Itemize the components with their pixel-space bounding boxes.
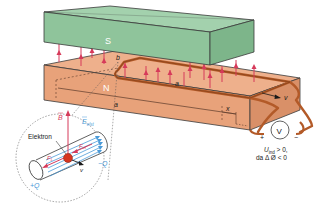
negative-charge-label: −Q: [98, 160, 108, 168]
positive-charge-label: +Q: [30, 182, 40, 190]
voltmeter-minus: −: [294, 134, 298, 141]
b-field-label: B: [58, 114, 63, 121]
width-b-label: b: [116, 54, 120, 61]
velocity-label: v: [284, 94, 288, 101]
north-pole-label: N: [103, 83, 110, 93]
position-x-label: x: [225, 105, 230, 112]
b-arrowhead-icon: [66, 110, 71, 116]
electron-label: Elektron: [28, 133, 52, 140]
induced-voltage-note: Uind > 0, da Δ Ø < 0: [256, 146, 288, 161]
flux-condition: da Δ Ø < 0: [256, 154, 287, 161]
south-magnet: [44, 6, 254, 65]
electron-icon: [64, 154, 73, 163]
induction-diagram: S N b a a x v V + − Uind > 0, da Δ Ø < 0: [0, 0, 316, 208]
electron-inset: B Eelst Fel FL v Elektron +Q −Q: [16, 110, 108, 202]
south-pole-label: S: [105, 36, 111, 46]
u-condition: > 0,: [275, 146, 288, 153]
voltmeter-plus: +: [260, 134, 264, 141]
length-a-top-label: a: [175, 80, 179, 87]
voltmeter-label: V: [277, 127, 283, 136]
